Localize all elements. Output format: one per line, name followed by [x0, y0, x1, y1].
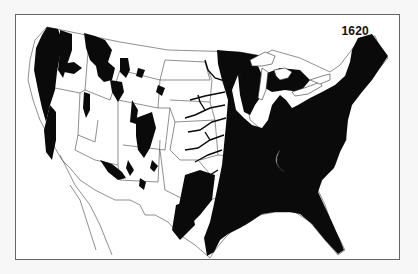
eastern-forest: [172, 34, 388, 256]
western-forests: [34, 27, 165, 190]
us-forest-map: [0, 0, 418, 274]
